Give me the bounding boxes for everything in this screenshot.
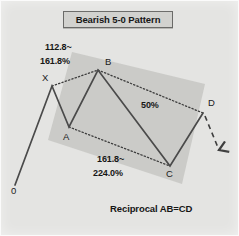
point-label-0: 0 <box>11 185 16 196</box>
page-title: Bearish 5-0 Pattern <box>76 14 161 25</box>
pattern-figure: Bearish 5-0 Pattern 112.8~ 161.8% 161.8~… <box>0 0 239 236</box>
xb-ratio-line2: 161.8% <box>40 56 70 66</box>
point-label-x: X <box>42 72 48 83</box>
ac-ratio-line1: 161.8~ <box>97 154 124 164</box>
ac-ratio-line2: 224.0% <box>93 168 123 178</box>
point-label-a: A <box>63 131 69 142</box>
point-label-d: D <box>208 97 215 108</box>
reciprocal-zone <box>48 52 205 184</box>
point-label-c: C <box>166 168 173 179</box>
point-label-b: B <box>105 56 111 67</box>
figure-caption: Reciprocal AB=CD <box>110 203 192 214</box>
bd-ratio-label: 50% <box>141 100 159 110</box>
bearish-continuation-line <box>205 116 219 150</box>
xb-ratio-line1: 112.8~ <box>45 42 72 52</box>
chart-canvas <box>0 0 239 236</box>
title-plate: Bearish 5-0 Pattern <box>63 11 173 28</box>
